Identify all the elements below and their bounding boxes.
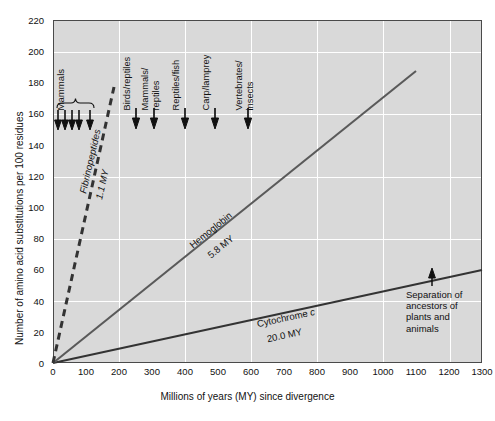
y-tick-label: 180 [0,77,44,88]
divergence-label-mammals-reptiles-line2: reptiles [151,81,162,111]
y-axis-title: Number of amino acid substitutions per 1… [14,112,25,345]
divergence-label-mammals-reptiles-line1: Mammals/ [140,68,151,111]
divergence-arrows [132,108,251,129]
divergence-label-carp-lamprey: Carp/lamprey [201,55,212,111]
separation-annotation-line3: plants and [406,311,482,322]
divergence-label-reptiles-fish: Reptiles/fish [171,60,182,111]
separation-annotation-line4: animals [406,323,482,334]
divergence-label-vertebrates-insects-line2: insects [245,82,256,111]
divergence-label-mammals: Mammals [56,69,67,111]
x-axis-title: Millions of years (MY) since divergence [0,391,495,402]
separation-annotation: Separation of ancestors of plants and an… [406,289,482,334]
divergence-label-vertebrates-insects-line1: Vertebrates/ [234,60,245,110]
x-tick-label: 1300 [462,366,495,377]
separation-annotation-line2: ancestors of [406,300,482,311]
y-tick-label: 200 [0,46,44,57]
divergence-label-birds-reptiles: Birds/reptiles [122,57,133,111]
y-tick-label: 220 [0,15,44,26]
figure-amino-acid-substitutions: 220 200 180 160 140 120 100 80 60 40 20 … [0,0,495,421]
separation-annotation-line1: Separation of [406,289,482,300]
series-overlay [0,0,495,421]
separation-arrow [429,268,436,286]
